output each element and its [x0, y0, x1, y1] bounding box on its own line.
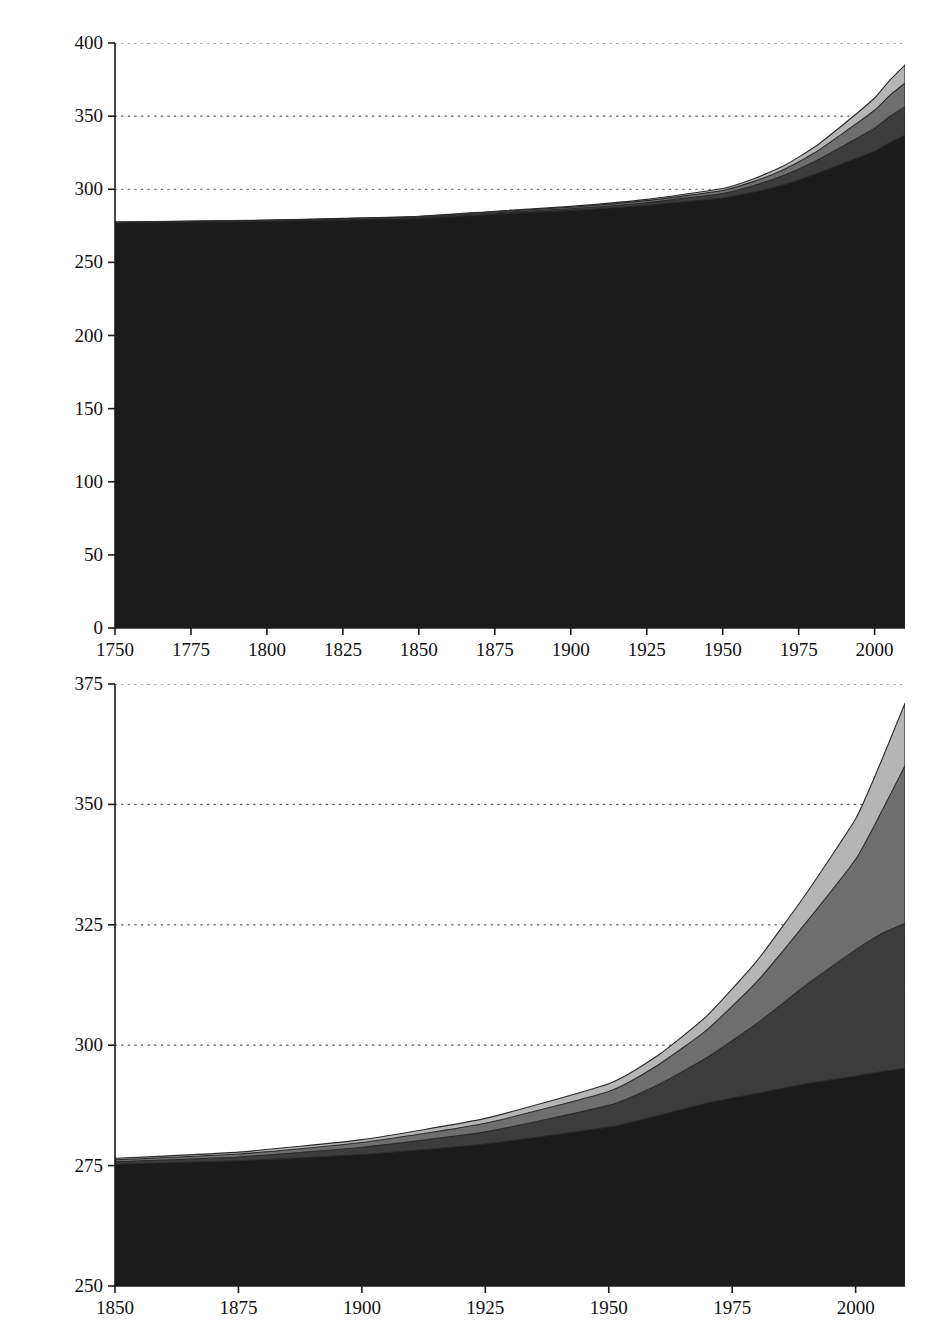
plot-area-bottom — [0, 666, 934, 1340]
plot-area-top — [0, 0, 934, 666]
x-tick-label: 1925 — [459, 1297, 511, 1319]
top-mask — [0, 666, 934, 684]
x-tick-label: 1925 — [621, 639, 673, 661]
x-tick-label: 1850 — [393, 639, 445, 661]
y-tick-label: 375 — [40, 673, 103, 695]
y-tick-label: 0 — [40, 617, 103, 639]
area-layer1 — [115, 1068, 905, 1286]
x-tick-label: 2000 — [849, 639, 901, 661]
x-tick-label: 1875 — [469, 639, 521, 661]
y-tick-label: 300 — [40, 178, 103, 200]
x-tick-label: 1900 — [336, 1297, 388, 1319]
x-tick-label: 1850 — [89, 1297, 141, 1319]
y-tick-label: 300 — [40, 1034, 103, 1056]
y-tick-label: 50 — [40, 544, 103, 566]
left-mask — [0, 666, 115, 1340]
y-tick-label: 200 — [40, 325, 103, 347]
top-mask — [0, 0, 934, 43]
x-tick-label: 1950 — [697, 639, 749, 661]
x-tick-label: 1800 — [241, 639, 293, 661]
y-tick-label: 350 — [40, 793, 103, 815]
x-tick-label: 1875 — [212, 1297, 264, 1319]
x-tick-label: 1775 — [165, 639, 217, 661]
right-mask — [905, 666, 934, 1340]
y-tick-label: 275 — [40, 1155, 103, 1177]
y-tick-label: 150 — [40, 398, 103, 420]
y-tick-label: 250 — [40, 1275, 103, 1297]
y-tick-label: 325 — [40, 914, 103, 936]
area-layer1 — [115, 135, 905, 628]
figure-page: Parts per million by volume 050100150200… — [0, 0, 934, 1340]
chart-panel-top: Parts per million by volume 050100150200… — [0, 0, 934, 666]
y-tick-label: 400 — [40, 32, 103, 54]
x-tick-label: 1900 — [545, 639, 597, 661]
chart-panel-bottom: Parts per million by volume 250275300325… — [0, 666, 934, 1340]
x-tick-label: 1975 — [706, 1297, 758, 1319]
x-tick-label: 1975 — [773, 639, 825, 661]
y-tick-label: 250 — [40, 251, 103, 273]
right-mask — [905, 0, 934, 666]
y-tick-label: 100 — [40, 471, 103, 493]
x-tick-label: 1825 — [317, 639, 369, 661]
y-tick-label: 350 — [40, 105, 103, 127]
x-tick-label: 1950 — [583, 1297, 635, 1319]
x-tick-label: 2000 — [830, 1297, 882, 1319]
x-tick-label: 1750 — [89, 639, 141, 661]
